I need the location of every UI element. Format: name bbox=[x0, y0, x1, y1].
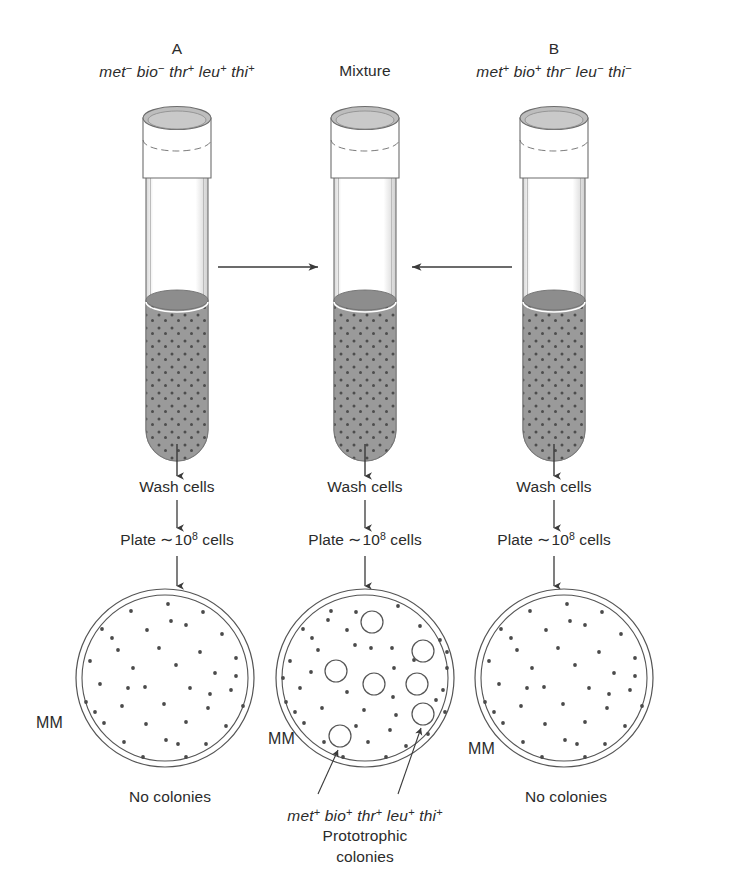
tube-a-meniscus bbox=[146, 290, 208, 310]
colony-ring bbox=[412, 640, 434, 662]
gene-met: met bbox=[476, 63, 502, 80]
strain-a-genotype: met− bio− thr+ leu+ thi+ bbox=[99, 62, 254, 81]
gene-thr: thr bbox=[169, 63, 188, 80]
step-plate-mixture: Plate ∼108 cells bbox=[308, 530, 422, 549]
gene-thi: thi bbox=[231, 63, 248, 80]
step-plate-mix-base: 10 bbox=[362, 531, 379, 548]
gene-leu-sign: + bbox=[220, 62, 227, 74]
tube-b-cap-rim bbox=[525, 111, 583, 129]
strain-b-genotype: met+ bio+ thr− leu− thi− bbox=[476, 62, 631, 81]
result-b: No colonies bbox=[525, 788, 607, 806]
gene-leu: leu bbox=[199, 63, 220, 80]
step-wash-b: Wash cells bbox=[516, 478, 591, 496]
approx-symbol: ∼ bbox=[348, 531, 362, 548]
colony-ring bbox=[406, 673, 428, 695]
gene-thi: thi bbox=[419, 807, 436, 824]
step-plate-a-base: 10 bbox=[174, 531, 191, 548]
gene-met: met bbox=[99, 63, 125, 80]
prototroph-caption-line2: colonies bbox=[336, 848, 394, 866]
gene-bio-sign: + bbox=[346, 806, 353, 818]
plate-a-medium-label: MM bbox=[36, 714, 63, 732]
colony-ring bbox=[412, 703, 434, 725]
step-plate-b: Plate ∼108 cells bbox=[497, 530, 611, 549]
result-a: No colonies bbox=[129, 788, 211, 806]
tube-a-cap-rim bbox=[148, 111, 206, 129]
gene-leu: leu bbox=[387, 807, 408, 824]
gene-bio: bio bbox=[514, 63, 535, 80]
tube-mix-cap-rim bbox=[336, 111, 394, 129]
conjugation-experiment-figure bbox=[0, 0, 731, 869]
gene-bio: bio bbox=[325, 807, 346, 824]
colony-ring bbox=[361, 611, 383, 633]
plate-b-inner-ring bbox=[481, 595, 647, 761]
plate-a-inner-ring bbox=[82, 595, 248, 761]
gene-met-sign: + bbox=[314, 806, 321, 818]
step-plate-a: Plate ∼108 cells bbox=[120, 530, 234, 549]
step-plate-a-prefix: Plate bbox=[120, 531, 160, 548]
colony-ring bbox=[363, 673, 385, 695]
step-wash-mixture: Wash cells bbox=[327, 478, 402, 496]
gene-thi-sign: + bbox=[248, 62, 255, 74]
step-plate-mix-prefix: Plate bbox=[308, 531, 348, 548]
plate-mixture-medium-label: MM bbox=[268, 730, 295, 748]
step-plate-b-base: 10 bbox=[551, 531, 568, 548]
colony-ring bbox=[329, 725, 351, 747]
gene-met-sign: − bbox=[126, 62, 133, 74]
gene-thr-sign: − bbox=[565, 62, 572, 74]
gene-thr-sign: + bbox=[376, 806, 383, 818]
step-plate-b-suffix: cells bbox=[575, 531, 611, 548]
gene-bio-sign: + bbox=[535, 62, 542, 74]
gene-thi-sign: − bbox=[625, 62, 632, 74]
gene-thr: thr bbox=[546, 63, 565, 80]
test-tube-a bbox=[143, 107, 211, 462]
step-plate-mix-suffix: cells bbox=[386, 531, 422, 548]
step-plate-a-suffix: cells bbox=[198, 531, 234, 548]
test-tube-b bbox=[520, 107, 588, 462]
colony-ring bbox=[325, 660, 347, 682]
gene-bio-sign: − bbox=[158, 62, 165, 74]
gene-leu: leu bbox=[576, 63, 597, 80]
approx-symbol: ∼ bbox=[160, 531, 174, 548]
gene-bio: bio bbox=[137, 63, 158, 80]
petri-plate-mixture bbox=[276, 589, 454, 794]
approx-symbol: ∼ bbox=[537, 531, 551, 548]
gene-met-sign: + bbox=[503, 62, 510, 74]
plate-b-medium-label: MM bbox=[468, 740, 495, 758]
gene-thi-sign: + bbox=[436, 806, 443, 818]
tube-mix-meniscus bbox=[334, 290, 396, 310]
prototroph-caption-line1: Prototrophic bbox=[323, 827, 408, 845]
strain-a-letter: A bbox=[172, 40, 182, 58]
tube-b-meniscus bbox=[523, 290, 585, 310]
strain-b-letter: B bbox=[549, 40, 559, 58]
petri-plate-a bbox=[76, 589, 254, 767]
gene-thr: thr bbox=[357, 807, 376, 824]
petri-plate-b bbox=[475, 589, 653, 767]
flow-arrows bbox=[177, 444, 554, 586]
step-plate-b-prefix: Plate bbox=[497, 531, 537, 548]
mixture-label: Mixture bbox=[339, 62, 391, 80]
tube-b-medium bbox=[523, 300, 585, 461]
gene-leu-sign: + bbox=[408, 806, 415, 818]
gene-thi: thi bbox=[608, 63, 625, 80]
tube-mix-medium bbox=[334, 300, 396, 461]
step-wash-a: Wash cells bbox=[139, 478, 214, 496]
tube-a-medium bbox=[146, 300, 208, 461]
test-tube-mixture bbox=[331, 107, 399, 462]
gene-leu-sign: − bbox=[597, 62, 604, 74]
gene-met: met bbox=[287, 807, 313, 824]
prototroph-genotype: met+ bio+ thr+ leu+ thi+ bbox=[287, 806, 442, 825]
gene-thr-sign: + bbox=[188, 62, 195, 74]
